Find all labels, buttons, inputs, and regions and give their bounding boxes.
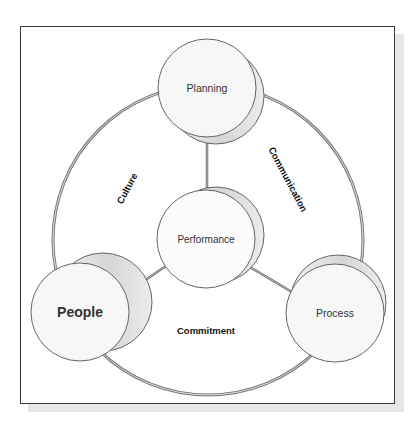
node-label-planning: Planning [187,82,228,94]
node-label-performance: Performance [177,234,235,245]
node-label-process: Process [316,307,354,319]
ring-label-communication: Communication [266,145,310,214]
spoke-process [248,266,292,292]
diagram-canvas: Planning Performance People Process Cult… [0,0,419,431]
ring-label-commitment: Commitment [177,325,236,336]
node-people: People [31,253,152,361]
node-planning: Planning [158,39,264,144]
ring-label-culture: Culture [114,171,139,206]
node-label-people: People [57,304,103,320]
node-performance: Performance [157,187,264,288]
node-process: Process [286,255,386,362]
diagram-svg: Planning Performance People Process Cult… [0,0,419,431]
